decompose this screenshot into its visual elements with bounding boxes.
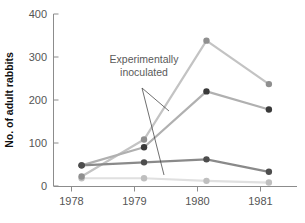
y-tick-label-400: 400 (29, 8, 47, 20)
series-line-dark (82, 91, 269, 165)
y-tick-label-0: 0 (41, 180, 47, 192)
data-point-series-medium-gray-1978 (78, 162, 84, 168)
y-axis-title: No. of adult rabbits (3, 52, 15, 148)
data-point-series-very-light-1981 (266, 179, 272, 185)
x-axis-ticks (72, 187, 261, 192)
y-tick-label-100: 100 (29, 137, 47, 149)
annotation-line-2: inoculated (120, 66, 168, 78)
data-point-series-medium-gray-1980 (203, 156, 209, 162)
data-point-series-medium-gray-1981 (266, 169, 272, 175)
x-tick-label-1981: 1981 (248, 195, 272, 207)
data-point-series-light-gray-1978 (78, 173, 84, 179)
data-point-series-light-gray-1981 (266, 81, 272, 87)
x-tick-label-1980: 1980 (185, 195, 209, 207)
series-line-very-light (82, 178, 269, 182)
chart-figure: 0 100 200 300 400 1978 1979 1980 1981 No… (0, 0, 305, 223)
x-tick-label-1979: 1979 (122, 195, 146, 207)
data-point-series-very-light-1980 (203, 178, 209, 184)
y-tick-label-300: 300 (29, 51, 47, 63)
y-axis-ticks (54, 14, 59, 186)
data-point-series-light-gray-1980 (203, 37, 209, 43)
data-point-series-dark-1981 (266, 106, 272, 112)
data-point-series-very-light-1979 (141, 175, 147, 181)
data-point-series-dark-1979 (141, 144, 147, 150)
leader-line-right (142, 88, 169, 111)
series-line-medium-gray (82, 159, 269, 171)
data-point-series-light-gray-1979 (141, 136, 147, 142)
data-point-series-dark-1980 (203, 88, 209, 94)
x-tick-label-1978: 1978 (59, 195, 83, 207)
y-tick-label-200: 200 (29, 94, 47, 106)
annotation-line-1: Experimentally (110, 53, 180, 65)
data-point-series-medium-gray-1979 (141, 159, 147, 165)
chart-plot-area: 0 100 200 300 400 1978 1979 1980 1981 No… (0, 0, 305, 223)
